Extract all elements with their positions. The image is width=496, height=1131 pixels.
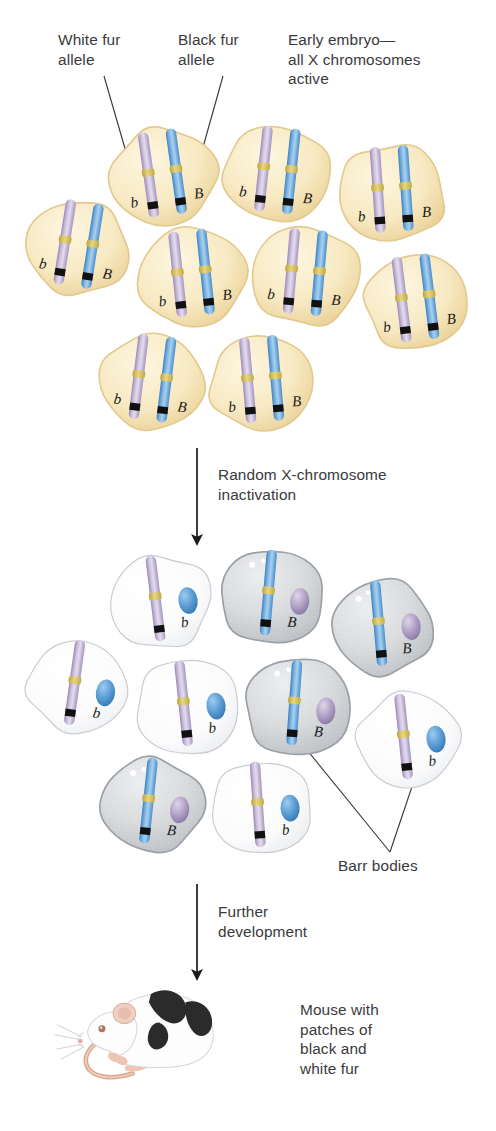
diagram-canvas: bBbBbBbBbBbBbBbBbB bBBbbBbBb <box>0 0 496 1131</box>
caption-mouse-phenotype: Mouse with patches of black and white fu… <box>300 1000 379 1078</box>
inactivated-cell: B <box>242 655 353 758</box>
inactivated-cell: b <box>20 633 135 741</box>
embryo-cell: bB <box>248 223 363 329</box>
cell-membrane <box>218 122 334 226</box>
allele-label-B: B <box>291 393 302 410</box>
allele-label-B: B <box>421 203 431 220</box>
active-allele-label: B <box>166 822 177 839</box>
callout-barr-bodies: Barr bodies <box>338 856 418 876</box>
inactivated-cell: b <box>131 655 242 759</box>
embryo-cell: bB <box>218 122 334 226</box>
cell-membrane <box>204 331 317 435</box>
embryo-cell: bB <box>336 142 446 244</box>
embryo-cell: bB <box>18 193 137 304</box>
cell-membrane <box>102 119 226 234</box>
inactivated-cell: b <box>351 685 467 793</box>
x-inactivation-figure: bBbBbBbBbBbBbBbBbB bBBbbBbBb <box>0 0 496 1131</box>
cell-membrane <box>359 249 472 353</box>
inactivated-cell: b <box>105 548 217 654</box>
inactivated-cell-cluster: bBBbbBbBb <box>20 546 467 857</box>
cell-membrane <box>336 142 446 244</box>
active-allele-label: B <box>402 640 413 657</box>
embryo-cell: bB <box>132 221 254 333</box>
early-embryo-cell-cluster: bBbBbBbBbBbBbBbBbB <box>18 119 472 438</box>
embryo-cell: bB <box>93 327 212 437</box>
embryo-cell: bB <box>359 249 472 353</box>
callout-black-fur-allele: Black fur allele <box>178 30 239 69</box>
allele-label-B: B <box>177 398 188 415</box>
label-further-development: Further development <box>218 902 307 941</box>
active-allele-label: B <box>313 723 323 740</box>
cell-membrane <box>248 223 363 329</box>
allele-label-B: B <box>222 286 233 303</box>
embryo-cell: bB <box>102 119 226 234</box>
embryo-cell: bB <box>204 331 317 435</box>
callout-white-fur-allele: White fur allele <box>58 30 120 69</box>
cell-membrane <box>93 327 212 437</box>
active-allele-label: B <box>287 613 298 630</box>
allele-label-B: B <box>302 190 313 207</box>
mouse-illustration <box>55 990 213 1077</box>
label-random-x-inactivation: Random X-chromosome inactivation <box>218 465 387 504</box>
inactivated-cell: b <box>209 758 313 856</box>
allele-label-B: B <box>331 291 342 308</box>
inactivated-cell: B <box>328 575 437 680</box>
inactivated-cell: B <box>96 751 211 857</box>
callout-early-embryo: Early embryo— all X chromosomes active <box>288 30 421 89</box>
allele-label-B: B <box>446 310 457 327</box>
cell-membrane <box>18 193 137 304</box>
inactivated-cell: B <box>217 546 325 647</box>
cell-membrane <box>132 221 254 333</box>
